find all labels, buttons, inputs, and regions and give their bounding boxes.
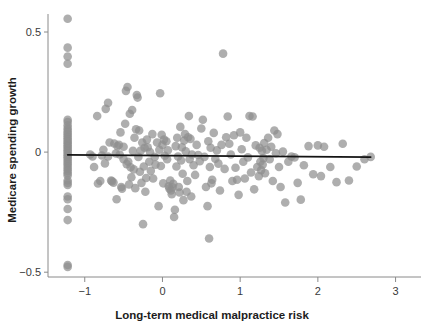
scatter-point bbox=[93, 112, 102, 121]
scatter-points-group bbox=[63, 14, 375, 271]
scatter-point bbox=[279, 147, 288, 156]
scatter-point bbox=[183, 177, 192, 186]
scatter-point bbox=[206, 163, 215, 172]
scatter-point bbox=[187, 192, 196, 201]
y-axis-tick-label: −0.5 bbox=[19, 266, 41, 278]
scatter-point bbox=[231, 163, 240, 172]
scatter-point bbox=[234, 191, 243, 200]
scatter-point bbox=[227, 150, 236, 159]
scatter-point bbox=[208, 175, 217, 184]
scatter-point bbox=[178, 169, 187, 178]
scatter-point bbox=[63, 263, 72, 272]
scatter-point bbox=[63, 216, 72, 225]
scatter-point bbox=[269, 177, 278, 186]
y-axis-tick-label: 0.5 bbox=[26, 26, 41, 38]
scatter-point bbox=[326, 163, 335, 172]
x-axis-tick-label: 0 bbox=[159, 285, 165, 297]
scatter-point bbox=[244, 153, 253, 162]
scatter-point bbox=[154, 202, 163, 211]
scatter-point bbox=[177, 156, 186, 165]
scatter-point bbox=[128, 106, 137, 115]
scatter-point bbox=[300, 161, 309, 170]
scatter-point bbox=[241, 174, 250, 183]
scatter-point bbox=[205, 234, 214, 243]
scatter-point bbox=[290, 153, 299, 162]
scatter-point bbox=[171, 205, 180, 214]
scatter-point bbox=[176, 123, 185, 132]
scatter-point bbox=[185, 112, 194, 121]
scatter-point bbox=[293, 179, 302, 188]
scatter-point bbox=[264, 133, 273, 142]
scatter-point bbox=[199, 115, 208, 124]
scatter-point bbox=[261, 169, 270, 178]
scatter-point bbox=[88, 152, 97, 161]
scatter-point bbox=[345, 176, 354, 185]
scatter-point bbox=[192, 141, 201, 150]
x-axis-tick-label: 2 bbox=[315, 285, 321, 297]
x-axis-tick-label: 1 bbox=[237, 285, 243, 297]
scatter-point bbox=[123, 83, 132, 92]
scatter-point bbox=[276, 183, 285, 192]
scatter-point bbox=[119, 143, 128, 152]
scatter-point bbox=[130, 133, 139, 142]
scatter-point bbox=[332, 178, 341, 187]
x-axis-tick-label: 3 bbox=[393, 285, 399, 297]
scatter-point bbox=[223, 112, 232, 121]
y-axis-title: Medicare spending growth bbox=[6, 77, 18, 223]
scatter-point bbox=[217, 141, 226, 150]
scatter-point bbox=[104, 99, 113, 108]
scatter-point bbox=[63, 195, 72, 204]
scatter-point bbox=[90, 163, 99, 172]
scatter-point bbox=[157, 162, 166, 171]
scatter-point bbox=[273, 130, 282, 139]
tick-labels-group: 0.50−0.5−10123 bbox=[19, 26, 398, 297]
scatter-point bbox=[149, 174, 158, 183]
y-axis-tick-label: 0 bbox=[35, 146, 41, 158]
scatter-point bbox=[209, 129, 218, 138]
scatter-point bbox=[250, 185, 259, 194]
scatter-chart-figure: 0.50−0.5−10123 Long-term medical malprac… bbox=[0, 0, 424, 328]
scatter-point bbox=[121, 119, 130, 128]
scatter-point bbox=[191, 171, 200, 180]
scatter-point bbox=[96, 177, 105, 186]
scatter-point bbox=[304, 142, 313, 151]
scatter-point bbox=[63, 14, 72, 23]
scatter-point bbox=[63, 59, 72, 68]
scatter-point bbox=[219, 49, 228, 58]
scatter-point bbox=[133, 93, 142, 102]
scatter-point bbox=[220, 165, 229, 174]
scatter-point bbox=[179, 196, 188, 205]
scatter-point bbox=[248, 112, 257, 121]
scatter-point bbox=[63, 205, 72, 214]
scatter-point bbox=[216, 186, 225, 195]
scatter-point bbox=[237, 145, 246, 154]
scatter-point bbox=[352, 162, 361, 171]
scatter-point bbox=[338, 139, 347, 148]
scatter-point bbox=[63, 43, 72, 52]
scatter-point bbox=[162, 137, 171, 146]
scatter-point bbox=[309, 170, 318, 179]
scatter-point bbox=[225, 139, 234, 148]
x-axis-tick-label: −1 bbox=[78, 285, 91, 297]
scatter-point bbox=[186, 135, 195, 144]
scatter-point bbox=[275, 163, 284, 172]
scatter-point bbox=[109, 178, 118, 187]
scatter-point bbox=[203, 202, 212, 211]
scatter-point bbox=[156, 89, 165, 98]
scatter-point bbox=[148, 130, 157, 139]
scatter-point bbox=[63, 181, 72, 190]
scatter-point bbox=[116, 128, 125, 137]
scatter-point bbox=[112, 195, 121, 204]
scatter-point bbox=[296, 195, 305, 204]
scatter-point bbox=[281, 198, 290, 207]
scatter-point bbox=[317, 172, 326, 181]
scatter-point bbox=[139, 220, 148, 229]
scatter-point bbox=[320, 143, 329, 152]
scatter-point bbox=[233, 175, 242, 184]
scatter-point bbox=[135, 126, 144, 135]
scatter-point bbox=[164, 146, 173, 155]
scatter-point bbox=[197, 124, 206, 133]
chart-canvas: 0.50−0.5−10123 Long-term medical malprac… bbox=[0, 0, 424, 328]
scatter-point bbox=[200, 153, 209, 162]
x-axis-title: Long-term medical malpractice risk bbox=[115, 309, 309, 321]
